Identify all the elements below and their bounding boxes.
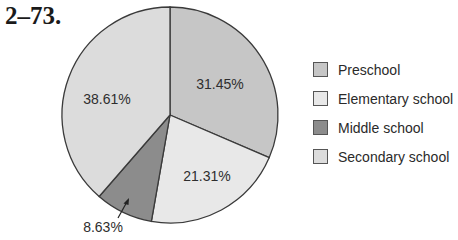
pie-slices [62,7,278,223]
legend-item-preschool: Preschool [313,55,453,84]
slice-label: 8.63% [83,219,123,235]
legend-item-elementary: Elementary school [313,84,453,113]
legend-item-secondary: Secondary school [313,142,453,171]
legend-swatch [313,120,328,135]
legend-label: Secondary school [338,149,449,165]
pie-chart: 31.45%21.31%8.63%38.61% [0,0,300,240]
legend-label: Elementary school [338,91,453,107]
legend-swatch [313,91,328,106]
slice-label: 31.45% [196,76,243,92]
slice-label: 21.31% [183,168,230,184]
slice-label: 38.61% [83,91,130,107]
legend-swatch [313,62,328,77]
legend-label: Preschool [338,62,400,78]
legend-item-middle: Middle school [313,113,453,142]
legend-label: Middle school [338,120,424,136]
legend-swatch [313,149,328,164]
legend: Preschool Elementary school Middle schoo… [313,55,453,171]
